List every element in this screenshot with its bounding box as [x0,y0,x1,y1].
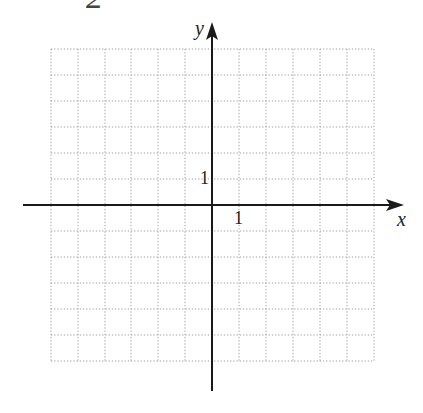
y-axis [206,22,218,391]
x-tick-label-1: 1 [234,208,243,229]
coordinate-plane [0,0,423,413]
x-axis-label: x [397,208,406,231]
y-tick-label-1: 1 [200,168,209,189]
y-axis-label: y [195,17,204,40]
